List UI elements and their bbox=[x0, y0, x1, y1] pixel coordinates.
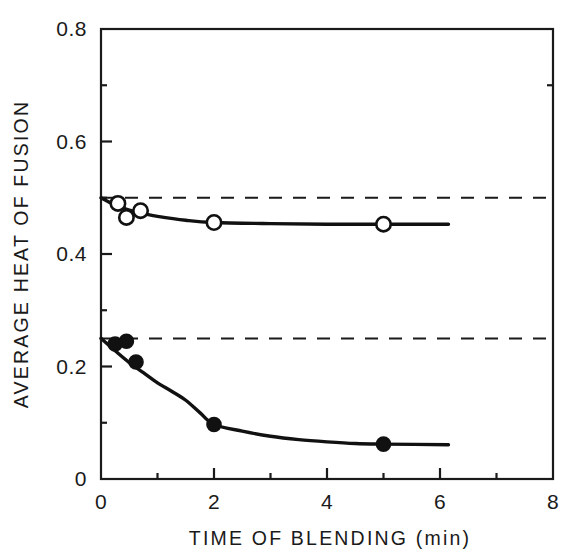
figure-root: 0246800.20.40.60.8 TIME OF BLENDING (min… bbox=[0, 0, 574, 556]
data-point-filled-circle bbox=[377, 437, 391, 451]
data-point-open-circle bbox=[119, 210, 133, 224]
data-point-filled-circle bbox=[119, 334, 133, 348]
x-tick-label: 6 bbox=[434, 490, 446, 513]
data-point-open-circle bbox=[111, 196, 125, 210]
data-point-open-circle bbox=[133, 203, 147, 217]
data-point-filled-circle bbox=[129, 355, 143, 369]
y-tick-label: 0.4 bbox=[56, 242, 87, 265]
plot-frame bbox=[101, 29, 553, 479]
data-point-open-circle bbox=[376, 217, 390, 231]
x-tick-label: 8 bbox=[547, 490, 559, 513]
x-tick-label: 0 bbox=[95, 490, 107, 513]
y-tick-label: 0.8 bbox=[56, 17, 87, 40]
plot-area-border bbox=[101, 29, 553, 479]
x-tick-label: 4 bbox=[321, 490, 333, 513]
chart-canvas: 0246800.20.40.60.8 TIME OF BLENDING (min… bbox=[0, 0, 574, 556]
x-axis-title: TIME OF BLENDING (min) bbox=[189, 527, 471, 549]
y-tick-label: 0.6 bbox=[56, 130, 87, 153]
data-point-open-circle bbox=[207, 215, 221, 229]
x-tick-label: 2 bbox=[208, 490, 220, 513]
y-tick-label: 0 bbox=[75, 467, 87, 490]
y-axis-title: AVERAGE HEAT OF FUSION bbox=[10, 100, 32, 408]
y-tick-label: 0.2 bbox=[56, 355, 87, 378]
data-point-filled-circle bbox=[207, 417, 221, 431]
